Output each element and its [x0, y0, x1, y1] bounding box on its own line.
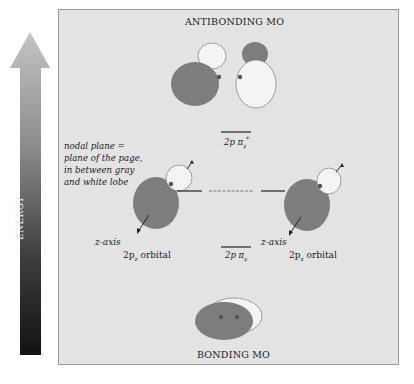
energy-label: ENERGY: [15, 196, 25, 240]
antibonding-orbital-icon: [171, 42, 276, 108]
right-2pz-orbital-icon: [284, 163, 344, 236]
nodal-note-line: plane of the page,: [64, 152, 143, 164]
z-axis-text: z-axis: [95, 237, 121, 247]
energy-arrow: [8, 30, 52, 360]
level-sub: z: [243, 143, 246, 149]
antibonding-level-label: 2p πz*: [224, 135, 249, 149]
nodal-note-line: in between gray: [64, 164, 143, 176]
level-sub: z: [244, 256, 247, 262]
z-axis-text: z-axis: [261, 237, 287, 247]
bonding-title: BONDING MO: [197, 349, 270, 360]
nodal-note-line: and white lobe: [64, 176, 143, 188]
left-z-axis-label: z-axis: [95, 237, 121, 247]
bonding-orbital-icon: [195, 298, 262, 340]
bonding-level-label: 2p πz: [225, 250, 247, 262]
energy-arrow-icon: [8, 30, 52, 360]
orbital-drawing: [59, 10, 400, 366]
right-z-axis-label: z-axis: [261, 237, 287, 247]
left-orbital-label: 2pz orbital: [123, 250, 171, 262]
orbital-suffix: orbital: [138, 250, 171, 260]
nodal-note-line: nodal plane =: [64, 140, 143, 152]
level-sup: *: [246, 135, 249, 142]
level-prefix: 2p π: [225, 250, 244, 260]
orbital-prefix: 2p: [123, 250, 135, 260]
nodal-plane-note: nodal plane = plane of the page, in betw…: [64, 140, 143, 188]
orbital-prefix: 2p: [289, 250, 301, 260]
mo-diagram-frame: ANTIBONDING MO: [58, 9, 399, 365]
level-prefix: 2p π: [224, 137, 243, 147]
orbital-suffix: orbital: [304, 250, 337, 260]
right-orbital-label: 2pz orbital: [289, 250, 337, 262]
